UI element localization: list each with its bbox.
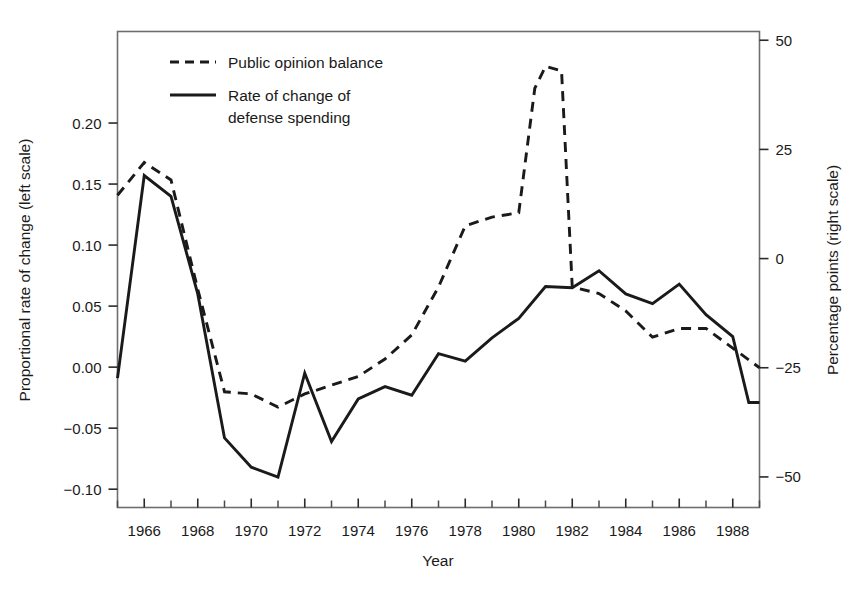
y-left-tick-label: −0.05 xyxy=(64,420,102,437)
x-tick-label: 1968 xyxy=(181,522,214,539)
y-left-tick-label: 0.20 xyxy=(72,115,101,132)
x-tick-label: 1966 xyxy=(128,522,161,539)
x-tick-label: 1984 xyxy=(609,522,642,539)
x-tick-label: 1982 xyxy=(556,522,589,539)
x-tick-label: 1970 xyxy=(235,522,268,539)
dual-axis-line-chart: 1966196819701972197419761978198019821984… xyxy=(0,0,865,593)
y-left-tick-label: 0.15 xyxy=(72,176,101,193)
y-left-tick-label: −0.10 xyxy=(64,481,102,498)
x-tick-label: 1980 xyxy=(502,522,535,539)
y-left-axis-title: Proportional rate of change (left scale) xyxy=(16,139,33,402)
y-left-tick-label: 0.10 xyxy=(72,237,101,254)
chart-figure: 1966196819701972197419761978198019821984… xyxy=(0,0,865,593)
x-tick-label: 1972 xyxy=(288,522,321,539)
x-tick-label: 1988 xyxy=(716,522,749,539)
legend-label-defense-spending-line1: Rate of change of xyxy=(228,87,351,104)
x-tick-label: 1978 xyxy=(449,522,482,539)
y-left-tick-label: 0.00 xyxy=(72,359,101,376)
y-left-tick-label: 0.05 xyxy=(72,298,101,315)
y-right-tick-label: −50 xyxy=(776,468,801,485)
y-right-axis-title: Percentage points (right scale) xyxy=(824,165,841,375)
y-right-tick-label: 0 xyxy=(776,250,784,267)
x-tick-label: 1976 xyxy=(395,522,428,539)
legend-label-defense-spending-line2: defense spending xyxy=(228,109,350,126)
y-right-tick-label: −25 xyxy=(776,359,801,376)
y-right-tick-label: 50 xyxy=(776,32,793,49)
x-tick-label: 1986 xyxy=(663,522,696,539)
x-axis-title: Year xyxy=(422,552,453,569)
y-right-tick-label: 25 xyxy=(776,141,793,158)
legend-label-public-opinion-balance: Public opinion balance xyxy=(228,54,383,71)
x-tick-label: 1974 xyxy=(342,522,375,539)
